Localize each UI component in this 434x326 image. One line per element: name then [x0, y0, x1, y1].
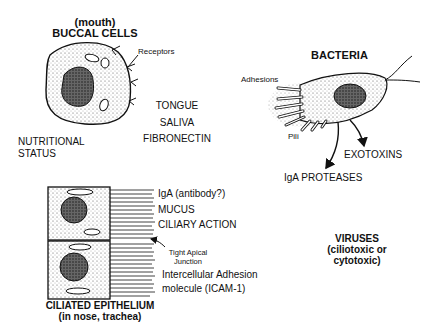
- receptors-label: Receptors: [138, 48, 174, 56]
- factor-mucus: MUCUS: [158, 205, 195, 216]
- bacteria-title: BACTERIA: [311, 50, 368, 62]
- exotoxins-label: EXOTOXINS: [344, 150, 402, 161]
- icam-line1: Intercellular Adhesion: [162, 270, 258, 281]
- junction-line1: Tight Apical: [158, 249, 218, 257]
- epithelium-subtitle: (in nose, trachea): [30, 312, 170, 323]
- factor-ciliary: CILIARY ACTION: [158, 220, 237, 231]
- icam-line2: molecule (ICAM-1): [162, 284, 245, 295]
- factor-fibronectin: FIBRONECTIN: [138, 134, 216, 145]
- buccal-cell-drawing: [46, 43, 138, 125]
- viruses-title: VIRUSES: [316, 234, 398, 245]
- epithelium-drawing: [48, 187, 165, 299]
- iga-proteases-label: IgA PROTEASES: [284, 173, 362, 184]
- factor-iga: IgA (antibody?): [158, 189, 225, 200]
- junction-line2: Junction: [158, 258, 218, 266]
- epithelium-title: CILIATED EPITHELIUM: [30, 301, 170, 312]
- buccal-title: BUCCAL CELLS: [40, 28, 150, 40]
- factor-tongue: TONGUE: [138, 101, 216, 112]
- nutritional-line2: STATUS: [18, 149, 56, 160]
- viruses-line2: cytotoxic): [316, 256, 398, 267]
- viruses-line1: (ciliotoxic or: [316, 245, 398, 256]
- nutritional-line1: NUTRITIONAL: [18, 137, 85, 148]
- factor-saliva: SALIVA: [138, 118, 216, 129]
- adhesions-label: Adhesions: [241, 76, 278, 84]
- pili-label: Pili: [288, 133, 299, 141]
